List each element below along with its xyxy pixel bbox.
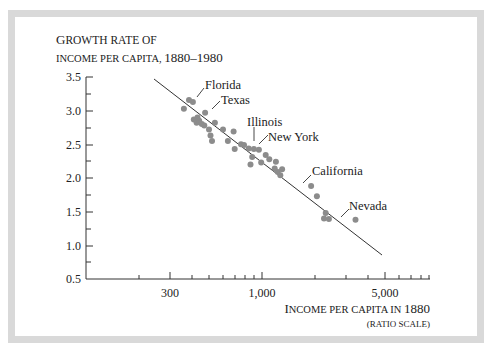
data-point <box>248 162 254 168</box>
data-point <box>266 156 272 162</box>
x-tick-labels: 300 1,000 5,000 <box>161 286 399 300</box>
data-point <box>323 210 329 216</box>
annotation-california: California <box>312 164 363 178</box>
data-point-new-york <box>256 147 262 153</box>
data-point <box>220 127 226 133</box>
x-axis-title-line1: INCOME PER CAPITA IN 1880 <box>284 301 430 316</box>
scatter-chart: GROWTH RATE OF INCOME PER CAPITA, 1880–1… <box>0 0 494 351</box>
annotation-texas: Texas <box>221 93 250 107</box>
y-axis-title-line2: INCOME PER CAPITA, 1880–1980 <box>56 50 223 65</box>
y-tick-2.0: 2.0 <box>66 171 81 185</box>
data-point <box>206 127 212 133</box>
data-point <box>201 123 207 129</box>
annotation-florida: Florida <box>205 78 242 92</box>
y-tick-2.5: 2.5 <box>66 138 81 152</box>
y-tick-3.0: 3.0 <box>66 104 81 118</box>
data-point <box>246 145 252 151</box>
x-axis <box>86 272 430 279</box>
data-point <box>314 193 320 199</box>
y-tick-1.0: 1.0 <box>66 239 81 253</box>
data-point-california <box>308 183 314 189</box>
y-tick-3.5: 3.5 <box>66 70 81 84</box>
y-tick-0.5: 0.5 <box>66 272 81 286</box>
data-point <box>249 154 255 160</box>
x-tick-1000: 1,000 <box>249 286 276 300</box>
data-point-texas <box>202 110 208 116</box>
y-axis-title-line1: GROWTH RATE OF <box>56 32 157 47</box>
y-tick-labels: 3.5 3.0 2.5 2.0 1.5 1.0 0.5 <box>66 70 81 286</box>
x-tick-300: 300 <box>161 286 179 300</box>
data-point <box>231 129 237 135</box>
x-axis-title-line2: (RATIO SCALE) <box>367 319 430 329</box>
data-point <box>232 146 238 152</box>
data-point <box>190 99 196 105</box>
data-point <box>195 114 201 120</box>
data-point <box>181 106 187 112</box>
y-tick-1.5: 1.5 <box>66 205 81 219</box>
data-point <box>225 138 231 144</box>
data-point <box>208 133 214 139</box>
data-point <box>258 160 264 166</box>
y-axis <box>86 77 93 279</box>
annotation-illinois: Illinois <box>247 115 283 129</box>
data-point-nevada <box>353 217 359 223</box>
data-point <box>326 216 332 222</box>
x-tick-5000: 5,000 <box>372 286 399 300</box>
data-point <box>212 120 218 126</box>
data-point <box>209 138 215 144</box>
data-point <box>279 166 285 172</box>
annotation-new-york: New York <box>268 130 319 144</box>
data-point <box>277 172 283 178</box>
annotation-nevada: Nevada <box>349 199 388 213</box>
data-point <box>273 159 279 165</box>
annotations <box>197 88 349 217</box>
